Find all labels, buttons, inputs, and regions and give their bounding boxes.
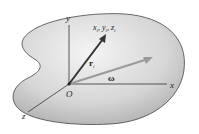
rigid-body-diagram: y x z O xi, yi, zi ri ω xyxy=(0,0,199,134)
origin-point xyxy=(67,82,70,85)
angular-velocity-label: ω xyxy=(108,73,115,83)
y-axis-label: y xyxy=(65,13,70,23)
point-coordinates-label: xi, yi, zi xyxy=(92,23,116,33)
x-axis-label: x xyxy=(169,80,174,90)
z-axis-label: z xyxy=(21,111,26,121)
origin-label: O xyxy=(66,89,73,99)
